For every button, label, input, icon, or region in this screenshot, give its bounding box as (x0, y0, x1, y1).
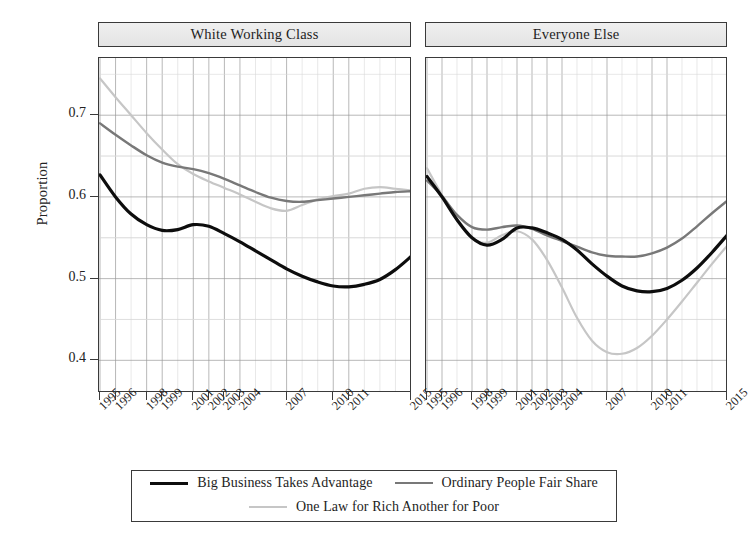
y-tick-label: 0.5 (46, 269, 86, 285)
legend-entry[interactable]: One Law for Rich Another for Poor (242, 499, 506, 515)
panel-plot-area (426, 58, 727, 392)
y-tick-label: 0.4 (46, 350, 86, 366)
legend-line-swatch (249, 506, 287, 508)
legend-entry[interactable]: Big Business Takes Advantage (143, 475, 379, 491)
legend-line-swatch (150, 482, 188, 485)
y-tick-label: 0.6 (46, 187, 86, 203)
legend-entry[interactable]: Ordinary People Fair Share (388, 475, 605, 491)
y-tick-label: 0.7 (46, 105, 86, 121)
legend-label: One Law for Rich Another for Poor (296, 499, 499, 515)
y-tick-mark (90, 196, 98, 197)
legend-label: Ordinary People Fair Share (442, 475, 598, 491)
plot-panel-1 (98, 57, 411, 392)
panel-strip-label: White Working Class (190, 26, 318, 43)
y-tick-mark (90, 359, 98, 360)
legend-row-primary: Big Business Takes AdvantageOrdinary Peo… (132, 471, 616, 495)
panel-strip-label: Everyone Else (533, 26, 620, 43)
panel-strip-2: Everyone Else (425, 22, 727, 47)
legend-label: Big Business Takes Advantage (197, 475, 372, 491)
y-tick-mark (90, 114, 98, 115)
chart-legend: Big Business Takes AdvantageOrdinary Peo… (131, 470, 617, 522)
panel-plot-area (99, 58, 411, 392)
legend-line-swatch (395, 482, 433, 484)
panel-strip-1: White Working Class (98, 22, 411, 47)
y-tick-mark (90, 278, 98, 279)
plot-panel-2 (425, 57, 727, 392)
legend-row-secondary: One Law for Rich Another for Poor (132, 495, 616, 519)
chart-figure: Proportion 0.40.50.60.7 White Working Cl… (0, 0, 748, 553)
